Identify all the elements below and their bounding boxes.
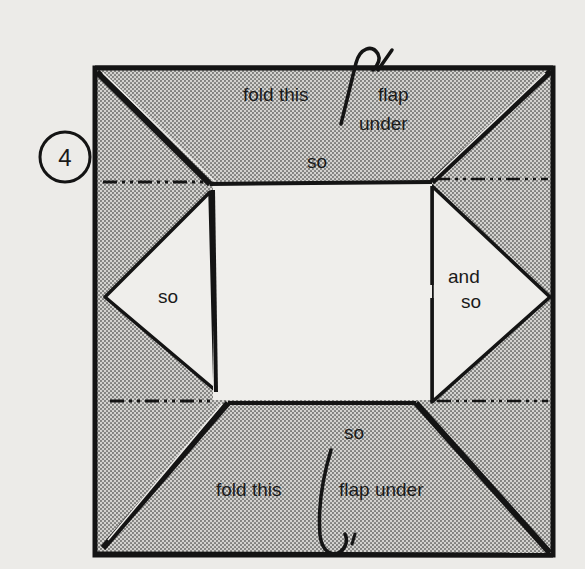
label-right-and: and xyxy=(448,266,480,287)
label-left-so: so xyxy=(158,286,178,307)
label-right-so: so xyxy=(461,291,481,312)
label-bottom-flap-under: flap under xyxy=(339,479,424,500)
label-bottom-so: so xyxy=(344,422,364,443)
label-top-under: under xyxy=(359,113,408,134)
label-top-flap: flap xyxy=(378,84,409,105)
center-square xyxy=(213,184,432,402)
label-top-fold-this: fold this xyxy=(243,84,308,105)
origami-fold-diagram: 4 fold this flap under so so and so so f… xyxy=(0,0,585,569)
label-top-so: so xyxy=(307,151,327,172)
step-number: 4 xyxy=(58,144,71,171)
label-bottom-fold-this: fold this xyxy=(216,479,281,500)
step-number-badge: 4 xyxy=(40,132,90,182)
